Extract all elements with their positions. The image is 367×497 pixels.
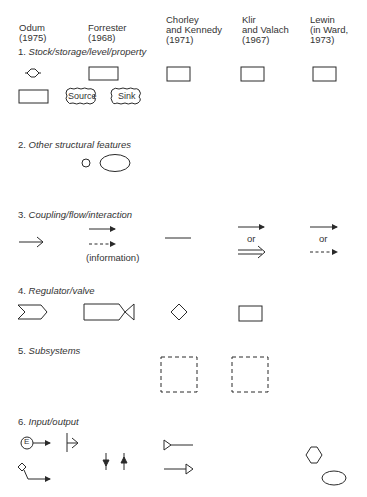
chorley-store-rect-icon — [167, 67, 190, 81]
lewin-store-rect-icon — [313, 67, 336, 81]
forrester-down-arrow-icon — [103, 460, 109, 466]
information-label: (information) — [86, 252, 139, 263]
chorley-output-line-triangle-icon — [164, 464, 193, 474]
klir-double-arrow-icon — [238, 246, 265, 258]
klir-regulator-rect-icon — [239, 306, 262, 321]
lewin-ellipse-icon — [322, 471, 346, 485]
ellipse-icon — [100, 155, 130, 172]
forrester-up-arrow-icon — [121, 457, 127, 463]
symbol-canvas — [0, 0, 367, 497]
forrester-level-rect-icon — [89, 67, 118, 80]
odum-open-arrow-icon — [19, 237, 43, 247]
energy-source-label: E — [24, 437, 29, 446]
odum-rect-icon — [19, 90, 48, 103]
or-label-lewin: or — [319, 233, 327, 244]
small-circle-icon — [82, 159, 90, 167]
sink-label: Sink — [118, 91, 136, 101]
source-label: Source — [68, 91, 97, 101]
forrester-bar-arrow-icon — [67, 433, 78, 452]
odum-chevron-valve-icon — [18, 305, 47, 319]
klir-store-rect-icon — [241, 67, 264, 81]
odum-storage-outflow-icon — [18, 463, 50, 479]
klir-subsystem-dashed-box-icon — [232, 357, 268, 392]
chorley-subsystem-dashed-box-icon — [161, 357, 197, 392]
or-label-klir: or — [247, 233, 255, 244]
odum-storage-symbol-icon — [25, 69, 41, 77]
chorley-input-triangle-line-icon — [164, 440, 193, 450]
chorley-diamond-regulator-icon — [171, 304, 187, 320]
lewin-hexagon-icon — [306, 447, 322, 463]
forrester-valve-icon — [84, 304, 134, 320]
